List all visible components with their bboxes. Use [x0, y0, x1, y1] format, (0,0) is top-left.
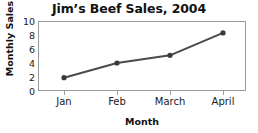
series-line-monthly-sales [64, 33, 223, 78]
data-point-april [220, 30, 225, 35]
data-point-feb [114, 60, 119, 65]
data-point-jan [61, 75, 66, 80]
line-chart: Jim’s Beef Sales, 2004 Monthly Sales 10 … [0, 0, 258, 133]
series-markers [61, 30, 225, 80]
series-layer [0, 0, 258, 133]
data-point-march [167, 53, 172, 58]
